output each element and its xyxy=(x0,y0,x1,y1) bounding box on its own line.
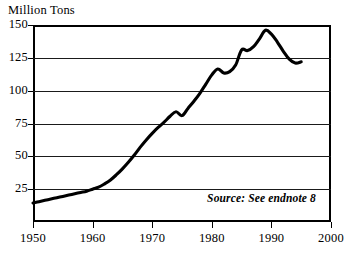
y-tick-label: 50 xyxy=(0,149,28,162)
x-tick-mark xyxy=(93,222,94,228)
source-annotation: Source: See endnote 8 xyxy=(207,192,316,204)
x-tick-mark xyxy=(271,222,272,228)
x-tick-label: 2000 xyxy=(308,231,354,245)
y-tick-label: 75 xyxy=(0,117,28,130)
y-axis-caption: Million Tons xyxy=(8,3,75,17)
y-tick-label: 100 xyxy=(0,84,28,97)
x-tick-mark xyxy=(212,222,213,228)
x-tick-label: 1990 xyxy=(248,231,294,245)
chart-figure: Million Tons 150125100755025 19501960197… xyxy=(0,0,354,258)
y-tick-label: 25 xyxy=(0,182,28,195)
y-tick-label: 125 xyxy=(0,51,28,64)
x-tick-mark xyxy=(33,222,34,228)
x-tick-label: 1950 xyxy=(10,231,56,245)
x-tick-label: 1960 xyxy=(70,231,116,245)
x-tick-mark xyxy=(331,222,332,228)
y-tick-label: 150 xyxy=(0,18,28,31)
x-tick-mark xyxy=(152,222,153,228)
x-tick-label: 1980 xyxy=(189,231,235,245)
x-tick-label: 1970 xyxy=(129,231,175,245)
